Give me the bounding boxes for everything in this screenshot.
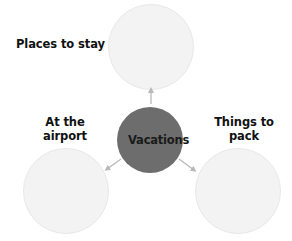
label-things-to-pack: Things to pack: [209, 115, 279, 143]
arrow-to-at-the-airport: [107, 159, 121, 169]
label-at-the-airport: At the airport: [33, 115, 97, 143]
label-at-the-airport-line1: At the: [33, 115, 97, 129]
label-places-to-stay-text: Places to stay: [16, 37, 105, 51]
arrow-to-things-to-pack: [179, 159, 194, 170]
branch-node-at-the-airport: [23, 148, 109, 234]
center-node-label: Vacations: [128, 133, 189, 147]
label-places-to-stay: Places to stay: [16, 37, 105, 51]
branch-node-places-to-stay: [108, 4, 194, 90]
label-at-the-airport-line2: airport: [33, 129, 97, 143]
mind-map-diagram: Vacations Places to stay At the airport …: [0, 0, 292, 241]
branch-node-things-to-pack: [195, 148, 281, 234]
label-things-to-pack-line1: Things to: [209, 115, 279, 129]
label-things-to-pack-line2: pack: [209, 129, 279, 143]
